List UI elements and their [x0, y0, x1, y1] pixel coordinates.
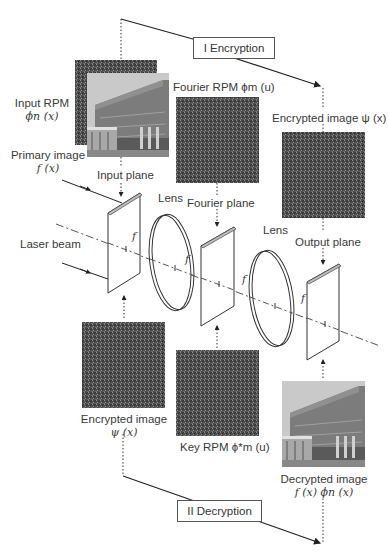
lens-1-label: Lens — [158, 191, 183, 205]
input-plane-label: Input plane — [97, 168, 154, 182]
primary-image-photo — [87, 73, 169, 157]
key-rpm-label: Key RPM ϕ*m (u) — [180, 440, 270, 454]
focal-label-2: f — [185, 253, 189, 267]
fourier-plane-label: Fourier plane — [187, 196, 255, 210]
focal-label-3: f — [242, 273, 246, 287]
lens-1 — [144, 212, 200, 314]
fourier-plane — [201, 227, 236, 326]
focal-label-1: f — [132, 230, 136, 244]
decryption-stage-box: II Decryption — [177, 500, 262, 522]
lens-2-label: Lens — [263, 223, 288, 237]
encrypted-image-bottom-label: Encrypted image ψ (x) — [76, 412, 172, 440]
laser-beam-label: Laser beam — [20, 237, 81, 251]
output-plane-label: Output plane — [295, 235, 361, 249]
input-plane — [108, 193, 142, 293]
encryption-stage-box: I Encryption — [193, 37, 275, 59]
fourier-rpm-label: Fourier RPM ϕm (u) — [173, 80, 275, 94]
encrypted-image-top-label: Encrypted image ψ (x) — [272, 111, 386, 125]
input-rpm-label: Input RPM ϕn (x) — [12, 96, 72, 124]
primary-image-label: Primary image f (x) — [10, 148, 86, 176]
decrypted-image-label: Decrypted image f (x) ϕn (x) — [274, 472, 374, 500]
lens-2 — [244, 248, 300, 350]
focal-label-4: f — [301, 292, 305, 306]
decrypted-image-photo — [282, 381, 365, 467]
output-plane — [307, 264, 341, 360]
